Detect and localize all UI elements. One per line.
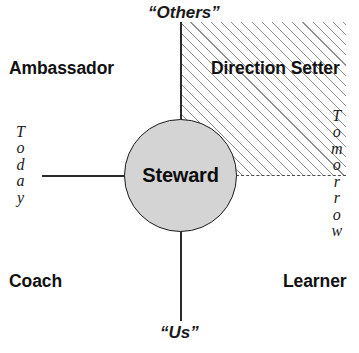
stacked-letter: o [333, 207, 341, 223]
horizontal-axis-right-dashed-line [236, 175, 346, 176]
center-circle: Steward [124, 119, 237, 232]
vertical-axis-upper-line [180, 22, 182, 122]
stacked-letter: w [331, 223, 342, 239]
center-circle-label: Steward [142, 164, 218, 187]
vertical-axis-lower-line [180, 231, 182, 321]
vertical-axis-bottom-label: “Us” [160, 323, 199, 343]
quadrant-label-top-left: Ambassador [9, 58, 114, 79]
stacked-letter: m [331, 141, 343, 157]
stacked-letter: r [334, 174, 340, 190]
vertical-axis-top-label: “Others” [148, 3, 220, 23]
quadrant-label-bottom-left: Coach [9, 271, 62, 292]
horizontal-axis-right-label: Tomorrow [331, 108, 343, 240]
stacked-letter: o [16, 140, 24, 156]
quadrant-label-top-right: Direction Setter [211, 58, 340, 79]
stacked-letter: T [332, 108, 341, 124]
stacked-letter: o [333, 157, 341, 173]
quadrant-label-bottom-right: Learner [283, 271, 347, 292]
stacked-letter: y [17, 190, 24, 206]
horizontal-axis-left-line [42, 175, 127, 177]
stacked-letter: a [16, 173, 24, 189]
quadrant-diagram: Steward Ambassador Direction Setter Coac… [0, 0, 359, 353]
stacked-letter: T [16, 124, 25, 140]
stacked-letter: o [333, 124, 341, 140]
horizontal-axis-left-label: Today [16, 124, 25, 206]
stacked-letter: r [334, 190, 340, 206]
stacked-letter: d [16, 157, 24, 173]
